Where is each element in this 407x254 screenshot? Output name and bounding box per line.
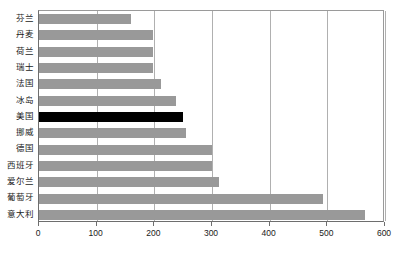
bar-row xyxy=(39,76,383,92)
category-label: 德国 xyxy=(16,140,34,156)
category-label: 荷兰 xyxy=(16,43,34,59)
x-tick-label: 0 xyxy=(36,228,41,238)
tick-mark xyxy=(326,222,327,226)
category-label: 芬兰 xyxy=(16,10,34,26)
bar-row xyxy=(39,44,383,60)
tick-mark xyxy=(269,222,270,226)
x-tick-label: 100 xyxy=(89,228,103,238)
bar xyxy=(39,161,212,171)
tick-mark xyxy=(96,222,97,226)
category-label: 意大利 xyxy=(7,206,34,222)
bar-row xyxy=(39,109,383,125)
bar xyxy=(39,30,153,40)
category-label: 葡萄牙 xyxy=(7,189,34,205)
x-tick-label: 200 xyxy=(146,228,160,238)
category-label: 挪威 xyxy=(16,124,34,140)
tick-mark xyxy=(153,222,154,226)
bar-row xyxy=(39,125,383,141)
bar-row xyxy=(39,93,383,109)
tick-mark xyxy=(211,222,212,226)
x-tick-label: 500 xyxy=(319,228,333,238)
category-label: 瑞士 xyxy=(16,59,34,75)
bar xyxy=(39,194,323,204)
category-label: 丹麦 xyxy=(16,26,34,42)
gridline xyxy=(385,11,386,221)
bar-chart: 芬兰丹麦荷兰瑞士法国冰岛美国挪威德国西班牙爱尔兰葡萄牙意大利 010020030… xyxy=(0,0,407,254)
bar-row xyxy=(39,174,383,190)
bars-layer xyxy=(39,11,383,221)
bar xyxy=(39,79,161,89)
category-axis-labels: 芬兰丹麦荷兰瑞士法国冰岛美国挪威德国西班牙爱尔兰葡萄牙意大利 xyxy=(0,10,36,222)
category-label: 冰岛 xyxy=(16,92,34,108)
bar-row xyxy=(39,60,383,76)
x-tick-label: 400 xyxy=(262,228,276,238)
bar xyxy=(39,210,365,220)
category-label: 爱尔兰 xyxy=(7,173,34,189)
bar-row xyxy=(39,190,383,206)
bar xyxy=(39,63,153,73)
category-label: 美国 xyxy=(16,108,34,124)
bar xyxy=(39,14,131,24)
bar-row xyxy=(39,158,383,174)
bar xyxy=(39,145,212,155)
plot-area xyxy=(38,10,384,222)
x-tick-label: 300 xyxy=(204,228,218,238)
bar xyxy=(39,128,186,138)
bar-row xyxy=(39,141,383,157)
x-tick-label: 600 xyxy=(377,228,391,238)
category-label: 西班牙 xyxy=(7,157,34,173)
tick-mark xyxy=(384,222,385,226)
bar xyxy=(39,96,176,106)
bar-row xyxy=(39,27,383,43)
bar-row xyxy=(39,11,383,27)
x-axis-tick-labels: 0100200300400500600 xyxy=(38,228,384,242)
tick-mark xyxy=(38,222,39,226)
bar-row xyxy=(39,207,383,223)
bar xyxy=(39,177,219,187)
bar xyxy=(39,47,153,57)
category-label: 法国 xyxy=(16,75,34,91)
bar xyxy=(39,112,183,122)
